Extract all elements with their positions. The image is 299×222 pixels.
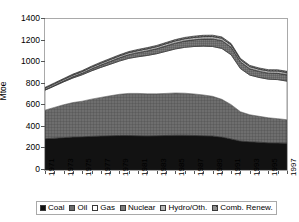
y-tick-mark (41, 18, 45, 19)
x-tick-label: 1983 (160, 158, 168, 176)
legend-item: Coal (40, 204, 64, 212)
legend-item: Nuclear (120, 204, 156, 212)
x-tick-label: 1989 (216, 158, 224, 176)
x-tick-mark (213, 171, 214, 174)
x-axis-labels: 1971197319751977197919811983198519871989… (44, 176, 289, 198)
y-tick-mark (41, 126, 45, 127)
y-tick-label: 0 (35, 165, 40, 173)
series-layer (45, 19, 287, 170)
x-tick-label: 1991 (234, 158, 242, 176)
x-tick-mark (157, 171, 158, 174)
legend-item: Oil (69, 204, 87, 212)
legend-label: Hydro/Oth. (168, 204, 207, 212)
plot-area (44, 18, 288, 171)
y-tick-label: 1000 (21, 57, 40, 65)
x-tick-label: 1973 (67, 158, 75, 176)
legend-label: Nuclear (128, 204, 156, 212)
legend-swatch-icon (69, 205, 75, 211)
y-axis: 0200400600800100012001400 (0, 0, 40, 222)
y-tick-label: 1400 (21, 14, 40, 22)
x-tick-label: 1987 (197, 158, 205, 176)
x-tick-label: 1995 (271, 158, 279, 176)
y-tick-mark (41, 83, 45, 84)
y-tick-label: 800 (26, 79, 40, 87)
y-tick-mark (41, 61, 45, 62)
legend-swatch-icon (160, 205, 166, 211)
x-tick-mark (250, 171, 251, 174)
y-tick-label: 600 (26, 100, 40, 108)
x-tick-mark (101, 171, 102, 174)
x-tick-label: 1977 (104, 158, 112, 176)
y-tick-label: 400 (26, 122, 40, 130)
legend-label: Comb. Renew. (220, 204, 272, 212)
y-tick-mark (41, 104, 45, 105)
y-tick-mark (41, 40, 45, 41)
x-tick-mark (45, 171, 46, 174)
x-tick-label: 1997 (290, 158, 298, 176)
legend-swatch-icon (40, 205, 46, 211)
legend-swatch-icon (212, 205, 218, 211)
x-tick-mark (194, 171, 195, 174)
y-tick-label: 1200 (21, 36, 40, 44)
x-tick-label: 1985 (178, 158, 186, 176)
legend-label: Coal (48, 204, 64, 212)
legend-label: Gas (100, 204, 115, 212)
legend-item: Comb. Renew. (212, 204, 272, 212)
y-tick-label: 200 (26, 143, 40, 151)
x-tick-label: 1993 (253, 158, 261, 176)
plot-inner (45, 19, 287, 170)
legend-swatch-icon (120, 205, 126, 211)
legend-item: Hydro/Oth. (160, 204, 207, 212)
y-tick-mark (41, 147, 45, 148)
x-tick-mark (287, 171, 288, 174)
legend-item: Gas (92, 204, 115, 212)
y-tick-mark (41, 169, 45, 170)
y-axis-title: Mtoe (0, 82, 8, 101)
x-tick-label: 1971 (48, 158, 56, 176)
x-tick-mark (231, 171, 232, 174)
x-tick-mark (138, 171, 139, 174)
x-tick-mark (64, 171, 65, 174)
x-tick-label: 1981 (141, 158, 149, 176)
x-tick-label: 1979 (122, 158, 130, 176)
stacked-area-chart: 0200400600800100012001400 Mtoe 197119731… (0, 0, 299, 222)
x-tick-label: 1975 (85, 158, 93, 176)
chart-legend: CoalOilGasNuclearHydro/Oth.Comb. Renew. (36, 201, 277, 215)
legend-swatch-icon (92, 205, 98, 211)
legend-label: Oil (77, 204, 87, 212)
